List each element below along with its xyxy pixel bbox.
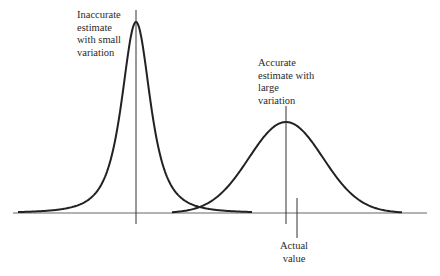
inaccurate-estimate-label: Inaccurate estimate with small variation bbox=[77, 9, 121, 59]
actual-value-label: Actual value bbox=[280, 240, 308, 265]
diagram-canvas bbox=[0, 0, 440, 276]
label-line: large bbox=[258, 82, 314, 95]
label-line: estimate bbox=[77, 22, 121, 35]
narrow-distribution-curve bbox=[18, 22, 252, 212]
label-line: estimate with bbox=[258, 70, 314, 83]
label-line: with small bbox=[77, 34, 121, 47]
accurate-estimate-label: Accurate estimate with large variation bbox=[258, 57, 314, 107]
wide-distribution-curve bbox=[172, 122, 402, 212]
label-line: variation bbox=[77, 47, 121, 60]
label-line: Accurate bbox=[258, 57, 314, 70]
label-line: Actual bbox=[280, 240, 308, 253]
label-line: value bbox=[280, 253, 308, 266]
label-line: Inaccurate bbox=[77, 9, 121, 22]
label-line: variation bbox=[258, 95, 314, 108]
